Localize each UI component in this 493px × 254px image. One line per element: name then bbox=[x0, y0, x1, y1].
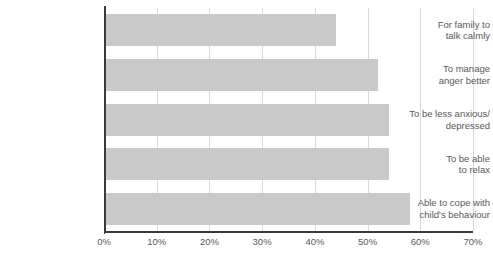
category-label-line: Able to cope with bbox=[390, 197, 490, 209]
category-label-line: For family to bbox=[390, 19, 490, 31]
category-label-line: depressed bbox=[390, 120, 490, 132]
x-tick-label: 10% bbox=[137, 236, 177, 247]
category-label: For family totalk calmly bbox=[390, 19, 490, 42]
category-label-line: talk calmly bbox=[390, 30, 490, 42]
x-tick-label: 40% bbox=[295, 236, 335, 247]
x-axis-line bbox=[104, 231, 473, 233]
category-label-line: anger better bbox=[390, 75, 490, 87]
category-label-line: To be able bbox=[390, 153, 490, 165]
bar bbox=[104, 14, 336, 46]
category-label: To manageanger better bbox=[390, 63, 490, 86]
x-tick-label: 20% bbox=[189, 236, 229, 247]
x-tick-label: 0% bbox=[84, 236, 124, 247]
bar bbox=[104, 193, 410, 225]
x-tick-label: 70% bbox=[453, 236, 493, 247]
category-label-line: To manage bbox=[390, 63, 490, 75]
category-label: Able to cope withchild's behaviour bbox=[390, 197, 490, 220]
y-axis-line bbox=[104, 6, 106, 233]
x-tick-label: 50% bbox=[348, 236, 388, 247]
category-label-line: child's behaviour bbox=[390, 209, 490, 221]
category-label-line: To be less anxious/ bbox=[390, 108, 490, 120]
x-tick-mark-0% bbox=[104, 228, 105, 234]
bar bbox=[104, 104, 389, 136]
category-label: To be ableto relax bbox=[390, 153, 490, 176]
bar bbox=[104, 59, 378, 91]
x-tick-label: 30% bbox=[242, 236, 282, 247]
bar bbox=[104, 148, 389, 180]
category-label: To be less anxious/depressed bbox=[390, 108, 490, 131]
category-label-line: to relax bbox=[390, 164, 490, 176]
x-tick-label: 60% bbox=[400, 236, 440, 247]
